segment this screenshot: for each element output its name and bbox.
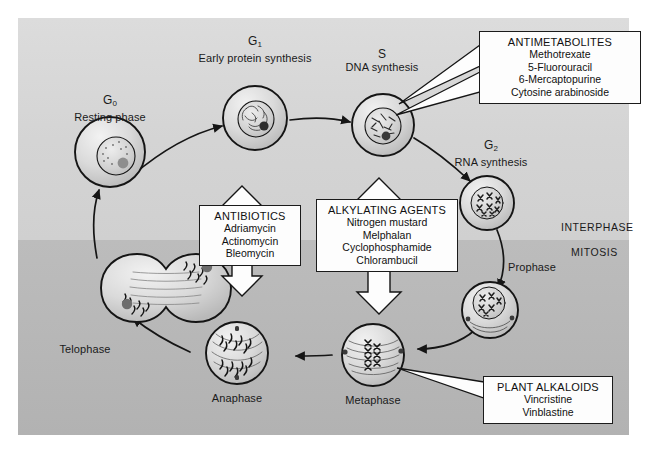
plant-alkaloids-heading: PLANT ALKALOIDS <box>491 381 605 393</box>
label-mitosis: MITOSIS <box>571 246 618 258</box>
alkylating-agents-drug-4: Chlorambucil <box>324 254 450 267</box>
drug-box-antimetabolites[interactable]: ANTIMETABOLITES Methotrexate 5-Fluoroura… <box>479 31 641 104</box>
alkylating-agents-heading: ALKYLATING AGENTS <box>324 204 450 216</box>
label-cell-prophase: Prophase <box>508 261 588 274</box>
antimetabolites-heading: ANTIMETABOLITES <box>487 36 633 48</box>
label-cell-g2: G2 RNA synthesis <box>436 139 546 168</box>
drug-box-alkylating-agents[interactable]: ALKYLATING AGENTS Nitrogen mustard Melph… <box>316 199 458 272</box>
antibiotics-drug-1: Adriamycin <box>207 222 293 235</box>
alkylating-agents-drug-2: Melphalan <box>324 229 450 242</box>
antibiotics-heading: ANTIBIOTICS <box>207 210 293 222</box>
label-s-description: DNA synthesis <box>346 61 419 73</box>
figure-canvas: G0 Resting phase G1 Early protein synthe… <box>0 0 647 452</box>
antimetabolites-drug-2: 5-Fluorouracil <box>487 61 633 74</box>
drug-box-plant-alkaloids[interactable]: PLANT ALKALOIDS Vincristine Vinblastine <box>483 376 613 424</box>
antibiotics-drug-2: Actinomycin <box>207 235 293 248</box>
label-cell-telophase: Telophase <box>35 343 135 356</box>
label-g1-description: Early protein synthesis <box>199 52 312 64</box>
antimetabolites-drug-1: Methotrexate <box>487 48 633 61</box>
label-g2-description: RNA synthesis <box>455 156 528 168</box>
label-cell-s: S DNA synthesis <box>332 48 432 73</box>
alkylating-agents-drug-1: Nitrogen mustard <box>324 216 450 229</box>
drug-box-antibiotics[interactable]: ANTIBIOTICS Adriamycin Actinomycin Bleom… <box>199 205 301 266</box>
label-g0-description: Resting phase <box>74 111 146 123</box>
antimetabolites-drug-3: 6-Mercaptopurine <box>487 73 633 86</box>
label-cell-g0: G0 Resting phase <box>60 94 160 123</box>
label-cell-metaphase: Metaphase <box>323 394 423 407</box>
alkylating-agents-drug-3: Cyclophosphamide <box>324 241 450 254</box>
label-g2-phase: G2 <box>436 139 546 156</box>
label-cell-g1: G1 Early protein synthesis <box>185 35 325 64</box>
label-g0-phase: G0 <box>60 94 160 111</box>
label-g1-phase: G1 <box>185 35 325 52</box>
antimetabolites-drug-4: Cytosine arabinoside <box>487 86 633 99</box>
label-cell-anaphase: Anaphase <box>187 392 287 405</box>
plant-alkaloids-drug-1: Vincristine <box>491 393 605 406</box>
label-interphase: INTERPHASE <box>561 221 634 233</box>
label-s-phase: S <box>332 48 432 61</box>
plant-alkaloids-drug-2: Vinblastine <box>491 406 605 419</box>
antibiotics-drug-3: Bleomycin <box>207 247 293 260</box>
